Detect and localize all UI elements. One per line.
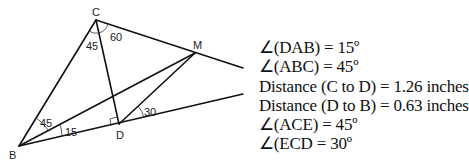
measurement-ace: ∠(ACE) = 45º (259, 115, 469, 134)
angle-label-c-45: 45 (86, 40, 98, 52)
angle-label-b-45: 45 (40, 117, 52, 129)
point-label-d: D (116, 129, 124, 141)
point-label-m: M (193, 39, 202, 51)
angle-arc-b-15 (60, 124, 62, 136)
measurement-dab: ∠(DAB) = 15º (259, 38, 469, 57)
measurements-panel: ∠(DAB) = 15º ∠(ABC) = 45º Distance (C to… (259, 38, 469, 154)
measurement-ecd: ∠(ECD = 30º (259, 134, 469, 153)
measurement-cd-distance: Distance (C to D) = 1.26 inches (259, 77, 469, 96)
segment-bc (19, 20, 96, 146)
angle-arc-c-right (99, 24, 108, 33)
angle-arc-c-left (89, 31, 99, 33)
angle-label-b-15: 15 (65, 126, 77, 138)
angle-label-d-30: 30 (144, 106, 156, 118)
ray-c-right (96, 20, 243, 68)
measurement-db-distance: Distance (D to B) = 0.63 inches (259, 96, 469, 115)
ray-b-right (19, 94, 243, 146)
measurement-abc: ∠(ABC) = 45º (259, 57, 469, 76)
angle-label-c-60: 60 (110, 31, 122, 43)
point-label-c: C (92, 6, 100, 18)
point-label-b: B (9, 149, 16, 161)
